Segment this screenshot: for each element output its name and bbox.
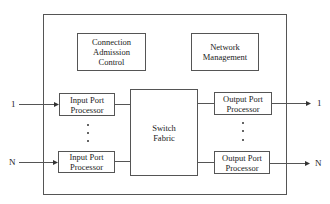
switch-fabric-block: Switch Fabric	[130, 89, 198, 176]
block-label: Management	[203, 52, 247, 62]
block-label: Network	[203, 42, 247, 52]
block-label: Processor	[69, 162, 103, 172]
block-label: Input Port	[69, 152, 103, 162]
ellipsis-dot	[242, 130, 244, 132]
ellipsis-dot	[87, 124, 89, 126]
block-label: Control	[92, 57, 131, 67]
block-label: Processor	[223, 104, 263, 114]
block-label: Switch	[152, 123, 176, 133]
block-label: Output Port	[223, 94, 263, 104]
arrow-icon	[305, 161, 310, 166]
block-label: Output Port	[222, 153, 262, 163]
ellipsis-dot	[242, 122, 244, 124]
arrow-icon	[306, 101, 311, 106]
input-port-processor-1: Input Port Processor	[59, 93, 115, 116]
input-label-n: N	[9, 157, 16, 167]
output-port-processor-n: Output Port Processor	[214, 151, 270, 174]
block-label: Processor	[222, 163, 262, 173]
output-port-processor-1: Output Port Processor	[214, 92, 272, 115]
output-label-1: 1	[317, 98, 322, 108]
block-label: Processor	[70, 105, 104, 115]
input-label-1: 1	[11, 99, 16, 109]
block-label: Admission	[92, 47, 131, 57]
ellipsis-dot	[87, 132, 89, 134]
network-management-block: Network Management	[191, 33, 259, 71]
block-label: Fabric	[152, 133, 176, 143]
connection-admission-control-block: Connection Admission Control	[77, 33, 146, 71]
ellipsis-dot	[242, 139, 244, 141]
input-port-processor-n: Input Port Processor	[58, 151, 115, 173]
ellipsis-dot	[87, 140, 89, 142]
block-label: Input Port	[70, 95, 104, 105]
block-label: Connection	[92, 37, 131, 47]
output-label-n: N	[315, 158, 322, 168]
